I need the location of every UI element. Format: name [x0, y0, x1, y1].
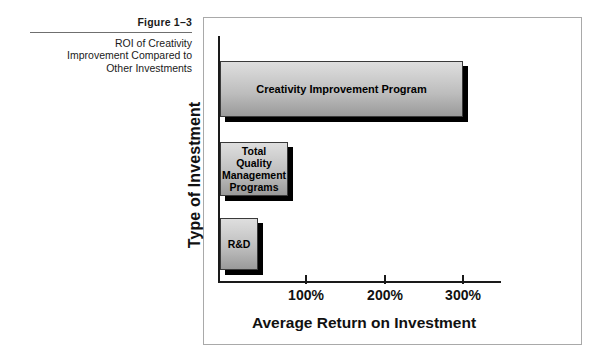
- x-axis-line: [218, 281, 501, 283]
- bar-label-line-4: Programs: [229, 181, 278, 193]
- x-tick-label-200: 200%: [350, 287, 420, 303]
- bar-chart: Type of Investment 100% 200% 300% Averag…: [0, 0, 608, 359]
- x-tick-300: [462, 275, 464, 284]
- bar-label-line-2: Quality: [236, 157, 272, 169]
- bar-rnd: R&D: [220, 218, 258, 270]
- bar-total-quality-management-programs: Total Quality Management Programs: [220, 142, 288, 196]
- x-tick-label-300: 300%: [428, 287, 498, 303]
- y-axis-title: Type of Investment: [186, 85, 212, 265]
- bar-body: R&D: [220, 218, 258, 270]
- bar-body: Total Quality Management Programs: [220, 142, 288, 196]
- x-tick-label-100: 100%: [271, 287, 341, 303]
- bar-label: Total Quality Management Programs: [218, 145, 290, 193]
- bar-label: R&D: [224, 238, 255, 250]
- bar-label: Creativity Improvement Program: [252, 83, 431, 96]
- bar-label-line-1: Total: [242, 145, 266, 157]
- x-tick-200: [384, 275, 386, 284]
- x-axis-title: Average Return on Investment: [219, 314, 509, 332]
- bar-creativity-improvement-program: Creativity Improvement Program: [220, 61, 463, 117]
- x-tick-100: [305, 275, 307, 284]
- bar-body: Creativity Improvement Program: [220, 61, 463, 117]
- bar-label-line-3: Management: [222, 169, 286, 181]
